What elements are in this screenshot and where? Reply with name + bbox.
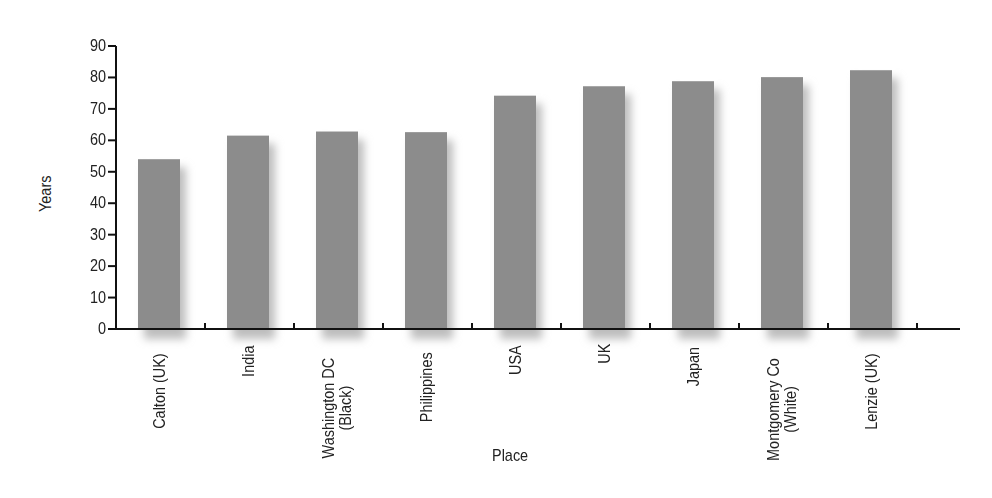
y-tick-label: 90 <box>72 36 106 56</box>
x-category-label: USA <box>507 340 524 375</box>
x-category-label: UK <box>596 340 613 364</box>
y-tick-label: 80 <box>72 67 106 87</box>
bar <box>850 70 892 329</box>
bar <box>316 132 358 329</box>
y-tick-label: 70 <box>72 99 106 119</box>
bar <box>494 96 536 329</box>
x-category-label: Calton (UK) <box>151 340 168 429</box>
x-category-label: India <box>240 340 257 377</box>
bar <box>672 81 714 329</box>
x-category-label: Philippines <box>418 340 435 422</box>
y-axis-label: Years <box>36 176 56 212</box>
x-category-label: Japan <box>685 340 702 386</box>
y-tick-label: 40 <box>72 193 106 213</box>
bar <box>138 159 180 329</box>
y-tick-label: 0 <box>72 319 106 339</box>
chart-canvas <box>0 0 992 498</box>
x-category-label: Montgomery Co(White) <box>765 340 799 461</box>
y-tick-label: 60 <box>72 130 106 150</box>
x-category-label: Lenzie (UK) <box>863 340 880 430</box>
bar <box>405 132 447 329</box>
y-tick-label: 10 <box>72 288 106 308</box>
y-tick-label: 50 <box>72 162 106 182</box>
bar <box>761 77 803 329</box>
x-category-label: Washington DC(Black) <box>320 340 354 458</box>
x-axis-label: Place <box>492 446 528 466</box>
y-tick-label: 20 <box>72 256 106 276</box>
bar <box>583 86 625 329</box>
y-tick-label: 30 <box>72 225 106 245</box>
bar-chart: 0102030405060708090 Calton (UK)IndiaWash… <box>0 0 992 498</box>
bar <box>227 136 269 329</box>
